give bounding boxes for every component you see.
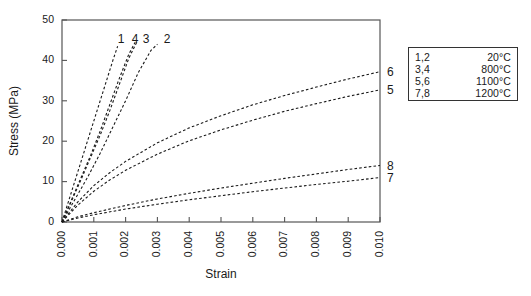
axis-ticks [62,20,380,222]
chart-canvas: 0.0000.0010.0020.0030.0040.0050.0060.007… [0,0,531,296]
legend-value: 800°C [481,63,511,75]
legend-row: 1,2 20°C [415,51,511,63]
x-tick-label: 0.002 [118,231,130,257]
y-tick-label: 10 [42,174,54,186]
legend-value: 1200°C [475,87,511,99]
x-tick-label: 0.003 [150,231,162,257]
y-tick-label: 20 [42,134,54,146]
y-tick-label: 40 [42,53,54,65]
x-tick-label: 0.001 [87,231,99,257]
axes-frame [62,20,380,222]
legend-key: 3,4 [415,63,430,75]
legend-row: 5,6 1100°C [415,75,511,87]
curve-label-3: 3 [143,32,150,46]
legend-row: 7,8 1200°C [415,87,511,99]
curve-1 [62,46,118,222]
curve-label-4: 4 [132,32,139,46]
stress-strain-figure: 0.0000.0010.0020.0030.0040.0050.0060.007… [0,0,531,296]
x-tick-label: 0.004 [182,231,194,257]
x-tick-label: 0.000 [55,231,67,257]
legend-value: 20°C [487,51,511,63]
y-tick-labels: 01020304050 [42,13,54,227]
legend-key: 7,8 [415,87,430,99]
x-tick-label: 0.008 [309,231,321,257]
curve-8 [62,165,380,222]
x-tick-label: 0.005 [214,231,226,257]
x-tick-label: 0.006 [246,231,258,257]
y-axis-title: Stress (MPa) [7,86,21,156]
curve-label-5: 5 [387,83,394,97]
curve-6 [62,72,380,222]
legend-key: 5,6 [415,75,430,87]
x-tick-labels: 0.0000.0010.0020.0030.0040.0050.0060.007… [55,231,385,257]
curve-label-6: 6 [387,65,394,79]
y-tick-label: 0 [48,215,54,227]
curve-label-7: 7 [387,171,394,185]
x-tick-label: 0.009 [341,231,353,257]
y-tick-label: 30 [42,94,54,106]
x-axis-title: Strain [205,267,236,281]
legend-key: 1,2 [415,51,430,63]
curve-labels: 14326587 [118,32,394,185]
curve-label-2: 2 [164,32,171,46]
curve-4 [62,42,135,222]
x-tick-label: 0.010 [373,231,385,257]
legend-value: 1100°C [476,75,511,87]
legend-box: 1,2 20°C 3,4 800°C 5,6 1100°C 7,8 1200°C [408,47,518,101]
curve-7 [62,178,380,222]
x-tick-label: 0.007 [277,231,289,257]
y-tick-label: 50 [42,13,54,25]
legend-row: 3,4 800°C [415,63,511,75]
curve-label-1: 1 [118,32,125,46]
data-curves [62,42,380,222]
